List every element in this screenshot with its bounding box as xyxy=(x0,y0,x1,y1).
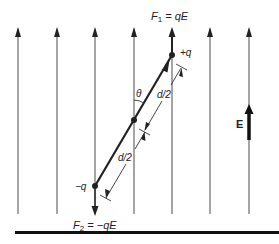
bottom-rule xyxy=(15,231,279,234)
half-distance-top-label: d/2 xyxy=(157,89,171,100)
arrowhead-icon xyxy=(207,27,213,37)
arrowhead-icon xyxy=(179,68,183,77)
arrowhead-icon xyxy=(141,132,146,141)
arrowhead-icon xyxy=(105,189,110,198)
arrowhead-icon xyxy=(54,27,60,37)
arrowhead-icon xyxy=(169,27,176,37)
positive-charge xyxy=(169,52,175,58)
positive-charge-label: +q xyxy=(180,47,192,58)
half-distance-bottom-label: d/2 xyxy=(118,152,132,163)
field-label: E xyxy=(236,118,243,130)
angle-label: θ xyxy=(136,88,142,99)
f1-label: F1 = qE xyxy=(151,10,189,24)
angle-arc xyxy=(134,100,144,103)
dipole-diagram: F1 = qE +q θ d/2 d/2 −q F2 = −qE E xyxy=(0,0,279,244)
negative-charge-label: −q xyxy=(75,181,87,192)
dipole-center xyxy=(131,117,137,123)
arrowhead-icon xyxy=(15,27,21,37)
arrowhead-icon xyxy=(92,27,98,37)
arrowhead-icon xyxy=(246,27,252,37)
dimension-lines xyxy=(100,64,187,201)
arrowhead-icon xyxy=(92,206,99,216)
arrowhead-icon xyxy=(131,27,137,37)
f2-label: F2 = −qE xyxy=(73,219,117,233)
arrowhead-icon xyxy=(245,104,254,114)
